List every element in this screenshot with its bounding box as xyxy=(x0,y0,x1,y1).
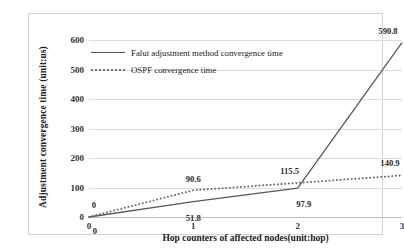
chart-plot-frame: Adjustment convergence time (unit:us) Ho… xyxy=(28,13,383,235)
legend-item-ospf: OSPF convergence time xyxy=(91,61,283,78)
legend-label-ospf: OSPF convergence time xyxy=(131,65,216,75)
data-point-label-fault: 97.9 xyxy=(296,199,311,209)
x-axis-tick-label: 0 xyxy=(87,221,92,231)
y-axis-tick-label: 500 xyxy=(71,65,85,75)
y-axis-tick-label: 600 xyxy=(71,35,85,45)
chart-legend: Falut adjustment method convergence time… xyxy=(91,44,283,78)
data-point-label-ospf: 115.5 xyxy=(280,166,299,176)
y-axis-tick-label: 100 xyxy=(71,183,85,193)
x-axis-baseline xyxy=(89,217,402,218)
figure-caption xyxy=(10,240,380,249)
legend-label-fault: Falut adjustment method convergence time xyxy=(131,48,283,58)
legend-item-fault: Falut adjustment method convergence time xyxy=(91,44,283,61)
data-point-label-ospf: 140.9 xyxy=(380,158,399,168)
y-axis-tick-label: 300 xyxy=(71,124,85,134)
solid-line-key-icon xyxy=(91,48,125,58)
dotted-line-key-icon xyxy=(91,65,125,75)
y-axis-title: Adjustment convergence time (unit:us) xyxy=(38,27,48,227)
y-axis-tick-label: 0 xyxy=(80,212,85,222)
x-axis-tick-label: 3 xyxy=(400,221,404,231)
y-axis-tick-label: 200 xyxy=(71,153,85,163)
data-point-label-fault: 590.8 xyxy=(378,26,397,36)
data-point-label-ospf: 0 xyxy=(92,200,96,210)
data-point-label-fault: 51.8 xyxy=(186,213,201,223)
data-point-label-ospf: 90.6 xyxy=(186,174,201,184)
y-axis-tick-label: 400 xyxy=(71,94,85,104)
data-point-label-fault: 0 xyxy=(93,226,97,236)
x-axis-tick-label: 2 xyxy=(295,221,300,231)
